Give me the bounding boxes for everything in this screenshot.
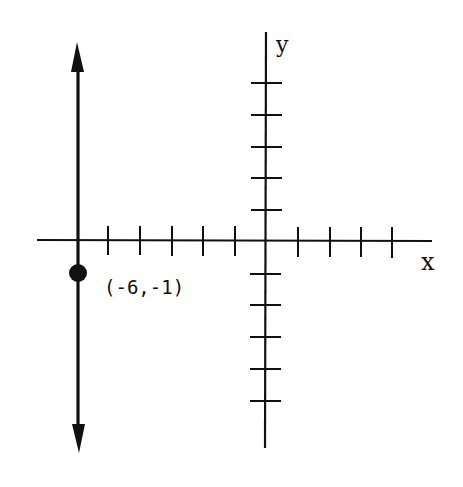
y-axis-label: y bbox=[275, 32, 289, 57]
y-axis bbox=[265, 32, 266, 448]
x-axis-ticks bbox=[108, 226, 392, 258]
point-label: (-6,-1) bbox=[104, 276, 184, 298]
arrow-up-icon bbox=[71, 42, 84, 72]
x-axis-label: x bbox=[421, 248, 435, 276]
coordinate-plane: y x (-6,-1) bbox=[0, 0, 463, 487]
arrow-down-icon bbox=[72, 424, 85, 453]
vertical-line-x-neg6 bbox=[71, 42, 85, 453]
point-neg6-neg1 bbox=[69, 264, 87, 282]
